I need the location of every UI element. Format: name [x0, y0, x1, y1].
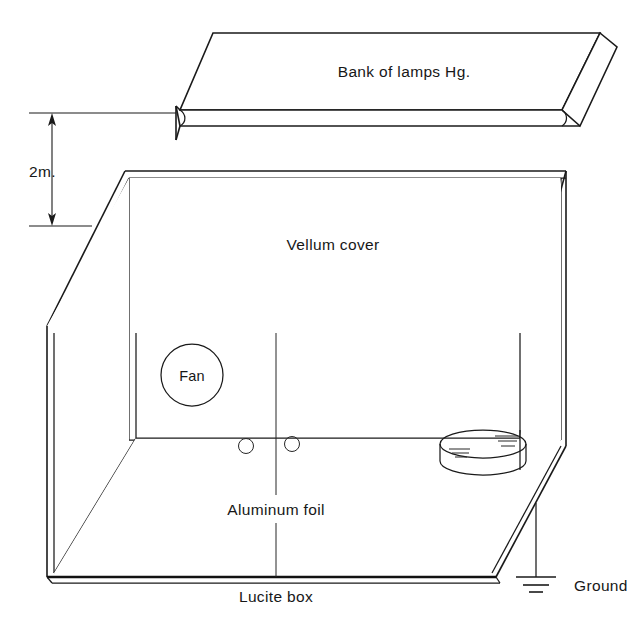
- figure-root: Bank of lamps Hg. 2m.: [0, 0, 643, 623]
- lucite-box-label: Lucite box: [239, 588, 313, 605]
- lamp-bank-label: Bank of lamps Hg.: [338, 63, 471, 80]
- lamp-bank-front-face: [180, 110, 562, 126]
- aluminum-foil-label: Aluminum foil: [227, 501, 325, 518]
- back-wall-face: [129, 178, 561, 440]
- lamp-bank: Bank of lamps Hg.: [176, 33, 617, 140]
- fan-label: Fan: [179, 368, 205, 384]
- gap-dimension-label: 2m.: [29, 163, 56, 180]
- base-right-cap: [496, 577, 500, 583]
- ground-label: Ground: [574, 577, 628, 594]
- ground: Ground: [516, 503, 628, 594]
- lucite-box: Vellum cover: [47, 171, 566, 583]
- apparatus-diagram: Bank of lamps Hg. 2m.: [0, 0, 643, 623]
- vellum-cover-label: Vellum cover: [287, 236, 380, 253]
